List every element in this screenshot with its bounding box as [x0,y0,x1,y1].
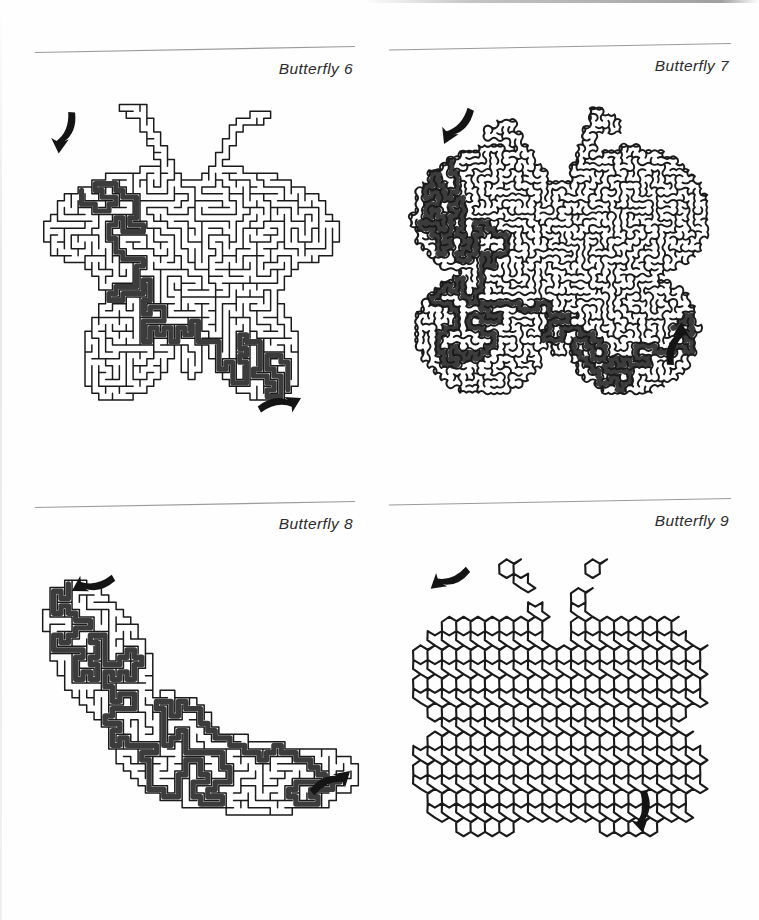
puzzle-grid: Butterfly 6 Butterfly 7 Butterfly 8 Butt… [0,0,759,920]
maze-butterfly-6 [30,96,360,436]
maze-walls [413,559,707,836]
maze-arrow [425,556,471,599]
maze-arrow [626,790,656,835]
maze-figure [392,96,732,436]
maze-butterfly-7 [392,96,732,436]
puzzle-panel-butterfly-7: Butterfly 7 [379,0,759,455]
maze-figure [30,96,360,436]
puzzle-panel-butterfly-6: Butterfly 6 [0,0,379,455]
panel-caption: Butterfly 6 [0,60,353,78]
maze-butterfly-9 [399,545,729,875]
panel-rule [35,500,353,510]
panel-rule [389,497,729,507]
maze-arrow [50,111,76,155]
scanned-page: Butterfly 6 Butterfly 7 Butterfly 8 Butt… [0,0,759,920]
maze-walls [44,104,340,400]
panel-rule [35,45,353,55]
maze-figure [399,545,729,875]
panel-rule [389,42,729,52]
maze-figure [28,550,373,860]
puzzle-panel-butterfly-8: Butterfly 8 [0,455,379,920]
panel-caption: Butterfly 9 [379,512,729,530]
panel-caption: Butterfly 7 [379,57,729,75]
maze-butterfly-8 [28,550,373,860]
maze-arrow [436,101,475,150]
puzzle-panel-butterfly-9: Butterfly 9 [379,455,759,920]
panel-caption: Butterfly 8 [0,515,353,533]
